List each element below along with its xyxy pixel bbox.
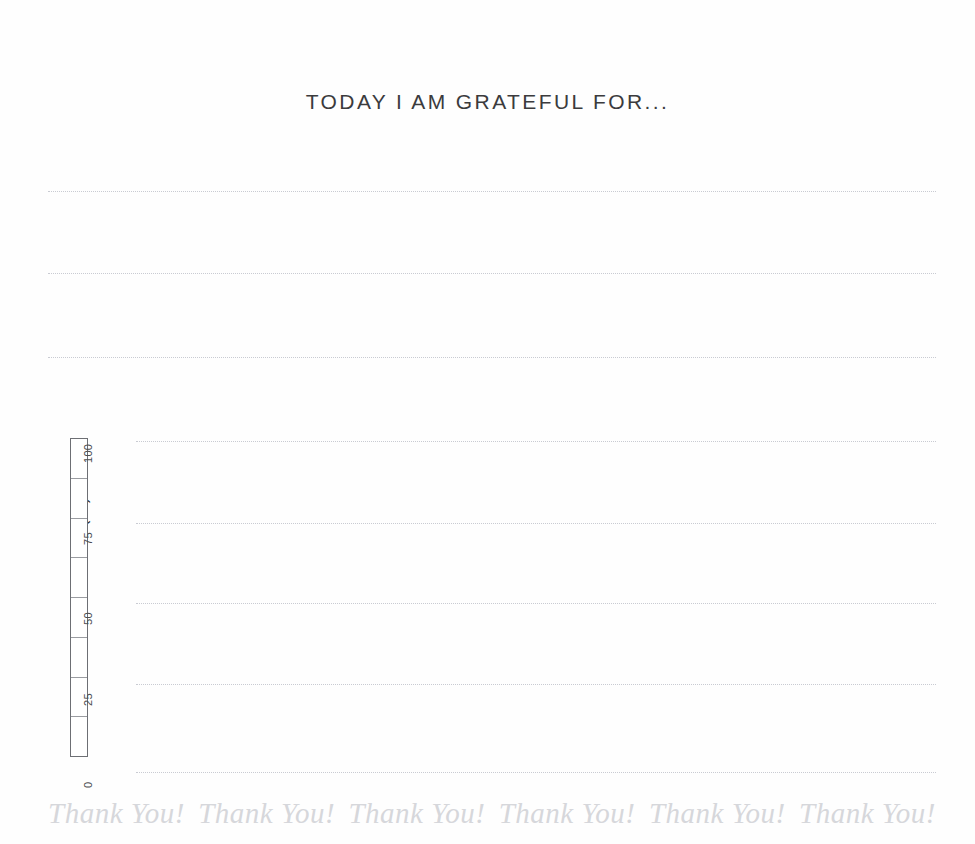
scale-segment[interactable] (71, 638, 87, 678)
chart-gridline-25[interactable] (136, 684, 936, 686)
scale-tick-label-0: 0 (82, 758, 94, 788)
scale-tick-label-50: 50 (82, 595, 94, 625)
thank-you-text: Thank You! (348, 797, 485, 830)
journal-page: TODAY I AM GRATEFUL FOR... HAPPINESS SCA… (0, 0, 975, 844)
writing-line[interactable] (48, 191, 936, 193)
scale-segment[interactable] (71, 479, 87, 519)
chart-gridline-50[interactable] (136, 603, 936, 605)
thank-you-text: Thank You! (48, 797, 185, 830)
thank-you-text: Thank You! (649, 797, 786, 830)
writing-line[interactable] (48, 273, 936, 275)
scale-segment[interactable] (71, 717, 87, 756)
thank-you-text: Thank You! (799, 797, 936, 830)
scale-tick-label-75: 75 (82, 515, 94, 545)
chart-gridline-75[interactable] (136, 523, 936, 525)
thank-you-text: Thank You! (198, 797, 335, 830)
scale-segment[interactable] (71, 558, 87, 598)
happiness-scale-ticks: 100 75 50 25 0 (88, 438, 128, 757)
footer-thank-you-row: Thank You! Thank You! Thank You! Thank Y… (48, 797, 936, 830)
scale-tick-label-25: 25 (82, 676, 94, 706)
scale-tick-label-100: 100 (82, 433, 94, 463)
chart-gridline-0[interactable] (136, 772, 936, 774)
happiness-scale-gauge[interactable]: HAPPINESS SCALE (%) 100 75 50 25 0 (30, 430, 140, 775)
page-title: TODAY I AM GRATEFUL FOR... (0, 90, 975, 114)
writing-line[interactable] (48, 357, 936, 359)
chart-gridline-100[interactable] (136, 441, 936, 443)
thank-you-text: Thank You! (499, 797, 636, 830)
